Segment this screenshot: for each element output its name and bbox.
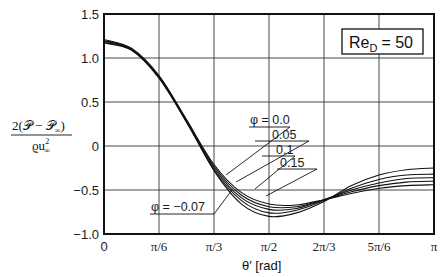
x-tick-label: π/3	[206, 239, 223, 254]
x-tick-labels: 0π/6π/3π/22π/35π/6π	[100, 239, 437, 254]
x-axis-label: θ′ [rad]	[242, 258, 281, 273]
y-tick-label: −1.0	[73, 227, 99, 242]
curve-label-phi-neg-0-07: φ = −0.07	[151, 200, 205, 214]
pressure-coefficient-chart: 1.51.00.50−0.5−1.0 0π/6π/3π/22π/35π/6π φ…	[0, 0, 444, 277]
curve-label-phi-0: φ = 0.0	[250, 113, 290, 127]
svg-text:2(𝒫 − 𝒫∞): 2(𝒫 − 𝒫∞)	[12, 118, 65, 135]
y-axis-label: 2(𝒫 − 𝒫∞) ϱu2∞	[11, 118, 72, 155]
x-tick-label: π/2	[261, 239, 278, 254]
curve-label-phi-0-1: 0.1	[276, 143, 293, 157]
y-tick-label: −0.5	[73, 183, 99, 198]
y-tick-label: 1.0	[81, 51, 99, 66]
y-tick-label: 1.5	[81, 7, 99, 22]
x-tick-label: 0	[100, 239, 107, 254]
curve-label-phi-0-15: 0.15	[280, 156, 304, 170]
x-tick-label: π/6	[151, 239, 168, 254]
y-tick-label: 0.5	[81, 95, 99, 110]
x-tick-label: 2π/3	[312, 239, 335, 254]
svg-text:ϱu2∞: ϱu2∞	[32, 137, 50, 155]
y-tick-labels: 1.51.00.50−0.5−1.0	[73, 7, 99, 242]
x-tick-label: π	[431, 239, 438, 254]
x-tick-label: 5π/6	[367, 239, 391, 254]
curve-label-phi-0-05: 0.05	[272, 128, 296, 142]
y-tick-label: 0	[92, 139, 99, 154]
